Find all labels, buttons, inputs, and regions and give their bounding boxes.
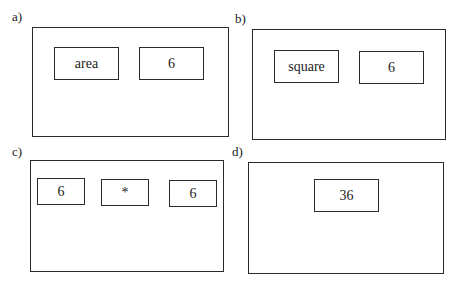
panel-b-cell-function: square (274, 50, 339, 83)
panel-c-label: c) (12, 145, 22, 158)
panel-a-label: a) (12, 10, 22, 23)
panel-b-cell-argument: 6 (359, 51, 424, 84)
panel-b (252, 29, 446, 140)
panel-c-cell-left-operand: 6 (37, 178, 85, 205)
panel-a-cell-function: area (54, 47, 119, 80)
panel-b-label: b) (235, 12, 246, 25)
panel-c-cell-operator: * (101, 179, 149, 206)
panel-d-cell-result: 36 (314, 179, 379, 212)
panel-c (30, 160, 224, 272)
panel-a (32, 27, 229, 137)
panel-d-label: d) (232, 145, 243, 158)
panel-c-cell-right-operand: 6 (169, 180, 217, 207)
panel-a-cell-argument: 6 (139, 47, 204, 80)
